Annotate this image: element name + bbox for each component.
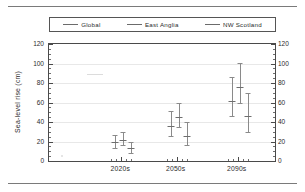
y-axis-minor-tick <box>49 73 51 74</box>
y-axis-tick <box>271 44 275 45</box>
x-axis-label-2020s: 2020s <box>111 165 131 172</box>
y-axis-minor-tick <box>273 93 275 94</box>
plot-inner <box>49 44 275 161</box>
y-axis-minor-tick <box>49 68 51 69</box>
y-axis-tick <box>49 103 53 104</box>
error-bar-cap-lower <box>245 132 250 133</box>
y-axis-label-right: 100 <box>278 59 298 66</box>
x-axis-minor-tick <box>182 159 183 161</box>
y-axis-tick <box>271 83 275 84</box>
legend-label-nw-scotland: NW Scotland <box>223 21 262 28</box>
y-axis-minor-tick <box>273 107 275 108</box>
y-axis-tick <box>271 103 275 104</box>
error-bar-cap-lower <box>184 145 189 146</box>
error-bar-cap-lower <box>113 148 118 149</box>
data-point-global-2020s <box>112 142 119 143</box>
y-axis-minor-tick <box>273 73 275 74</box>
data-point-nw-scotland-2020s <box>128 148 135 149</box>
error-bar-cap-lower <box>129 153 134 154</box>
data-point-east-anglia-2020s <box>120 140 127 141</box>
legend-label-global: Global <box>81 21 100 28</box>
x-axis-minor-tick <box>131 159 132 161</box>
y-axis-label-left: 40 <box>24 118 44 125</box>
legend-label-east-anglia: East Anglia <box>145 21 179 28</box>
y-axis-minor-tick <box>49 156 51 157</box>
y-axis-minor-tick <box>49 54 51 55</box>
y-axis-minor-tick <box>49 132 51 133</box>
x-axis-minor-tick <box>111 159 112 161</box>
y-axis-label-right: 40 <box>278 118 298 125</box>
scan-artifact <box>61 155 63 157</box>
legend-item-global: Global <box>63 21 100 28</box>
x-axis-minor-tick <box>233 159 234 161</box>
y-axis-minor-tick <box>273 127 275 128</box>
top-horizontal-rule <box>8 6 297 7</box>
y-axis-minor-tick <box>49 137 51 138</box>
x-axis-minor-tick <box>228 159 229 161</box>
y-axis-minor-tick <box>273 54 275 55</box>
x-axis-tick <box>177 157 178 161</box>
y-axis-label-right: 60 <box>278 98 298 105</box>
y-axis-label-right: 0 <box>278 157 298 164</box>
y-axis-minor-tick <box>49 107 51 108</box>
y-axis-minor-tick <box>49 59 51 60</box>
data-point-east-anglia-2090s <box>236 87 243 88</box>
x-axis-tick <box>238 157 239 161</box>
y-axis-minor-tick <box>273 49 275 50</box>
y-axis-tick <box>271 64 275 65</box>
y-axis-minor-tick <box>273 132 275 133</box>
error-bar-east-anglia-2090s <box>240 63 241 104</box>
x-axis-label-2050s: 2050s <box>166 165 186 172</box>
y-axis-minor-tick <box>49 127 51 128</box>
y-axis-minor-tick <box>273 78 275 79</box>
data-point-global-2050s <box>167 126 174 127</box>
error-bar-nw-scotland-2050s <box>187 122 188 145</box>
x-axis-minor-tick <box>187 159 188 161</box>
gridline <box>49 142 275 143</box>
y-axis-minor-tick <box>273 137 275 138</box>
x-axis-label-2090s: 2090s <box>227 165 247 172</box>
y-axis-tick <box>49 64 53 65</box>
y-axis-minor-tick <box>49 146 51 147</box>
error-bar-cap-upper <box>121 132 126 133</box>
y-axis-tick <box>271 161 275 162</box>
error-bar-cap-lower <box>176 127 181 128</box>
error-bar-cap-upper <box>176 103 181 104</box>
x-axis-tick <box>121 157 122 161</box>
y-axis-minor-tick <box>49 88 51 89</box>
x-axis-minor-tick <box>172 159 173 161</box>
gridline <box>49 122 275 123</box>
gridline <box>49 64 275 65</box>
error-bar-east-anglia-2050s <box>179 103 180 126</box>
error-bar-cap-upper <box>237 63 242 64</box>
legend-swatch-icon <box>205 24 220 25</box>
x-axis-minor-tick <box>243 159 244 161</box>
x-axis-minor-tick <box>167 159 168 161</box>
scan-artifact <box>87 74 103 75</box>
y-axis-minor-tick <box>273 59 275 60</box>
y-axis-minor-tick <box>49 151 51 152</box>
y-axis-minor-tick <box>273 156 275 157</box>
error-bar-cap-upper <box>113 135 118 136</box>
y-axis-label-left: 0 <box>24 157 44 164</box>
error-bar-cap-lower <box>237 103 242 104</box>
y-axis-label-left: 60 <box>24 98 44 105</box>
y-axis-label-left: 120 <box>24 40 44 47</box>
y-axis-minor-tick <box>49 93 51 94</box>
error-bar-cap-lower <box>229 116 234 117</box>
y-axis-minor-tick <box>49 112 51 113</box>
error-bar-global-2050s <box>171 111 172 135</box>
y-axis-tick <box>271 122 275 123</box>
y-axis-minor-tick <box>49 117 51 118</box>
x-axis-minor-tick <box>126 159 127 161</box>
y-axis-tick <box>49 122 53 123</box>
legend-swatch-icon <box>127 24 142 25</box>
figure-container: Global East Anglia NW Scotland Sea-level… <box>0 0 305 192</box>
y-axis-tick <box>49 44 53 45</box>
y-axis-minor-tick <box>273 146 275 147</box>
y-axis-minor-tick <box>49 78 51 79</box>
y-axis-minor-tick <box>49 98 51 99</box>
chart-legend: Global East Anglia NW Scotland <box>49 17 276 32</box>
bottom-horizontal-rule <box>8 183 297 184</box>
y-axis-tick <box>271 142 275 143</box>
